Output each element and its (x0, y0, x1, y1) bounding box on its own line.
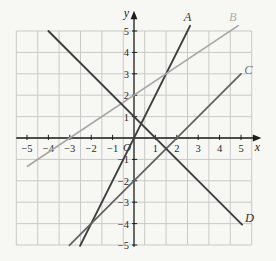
y-axis-label: y (123, 6, 130, 20)
coordinate-plane-chart: −5−4−3−2−112345−5−4−3−2−112345OxyABCD (0, 0, 276, 261)
y-tick-label: 1 (124, 112, 129, 123)
x-axis-label: x (254, 140, 261, 154)
series-label-C: C (244, 63, 253, 77)
y-tick-label: −5 (118, 240, 129, 251)
y-tick-label: −2 (118, 176, 129, 187)
y-tick-label: −3 (118, 197, 129, 208)
y-tick-label: 3 (124, 69, 129, 80)
x-tick-label: −1 (107, 143, 118, 154)
series-label-D: D (244, 211, 254, 225)
y-tick-label: 5 (124, 26, 129, 37)
y-tick-label: −4 (118, 219, 130, 230)
y-tick-label: 4 (124, 47, 130, 58)
series-label-B: B (229, 10, 237, 24)
x-tick-label: −2 (86, 143, 97, 154)
x-tick-label: 4 (217, 143, 223, 154)
x-tick-label: −5 (21, 143, 32, 154)
x-tick-label: 5 (238, 143, 243, 154)
graph-figure: −5−4−3−2−112345−5−4−3−2−112345OxyABCD (0, 0, 276, 261)
x-tick-label: 3 (196, 143, 201, 154)
series-label-A: A (183, 10, 192, 24)
x-tick-label: 2 (174, 143, 179, 154)
x-tick-label: −3 (64, 143, 75, 154)
x-tick-label: 1 (153, 143, 158, 154)
